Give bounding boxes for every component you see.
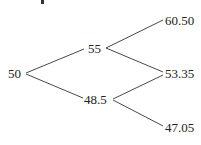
node-up-down: 53.35 [165,67,194,80]
node-down-down: 47.05 [165,121,194,134]
node-up: 55 [88,42,101,55]
edge-down-updown [113,75,163,99]
edge-up-updown [106,48,163,72]
node-root: 50 [8,67,21,80]
edge-up-upup [106,20,163,48]
node-down: 48.5 [84,93,107,106]
edge-down-downdown [113,100,163,126]
edge-root-down [26,74,83,98]
node-up-up: 60.50 [165,14,194,27]
edge-root-up [26,49,84,73]
